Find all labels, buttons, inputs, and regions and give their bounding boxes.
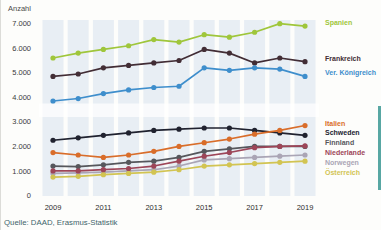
- data-point: [151, 159, 156, 164]
- data-point: [302, 74, 307, 79]
- data-point: [252, 65, 257, 70]
- data-point: [302, 159, 307, 164]
- data-point: [302, 152, 307, 157]
- y-tick-label: 6.000: [12, 44, 31, 53]
- data-point: [302, 123, 307, 128]
- y-tick-label: 0: [27, 191, 31, 200]
- data-point: [151, 128, 156, 133]
- data-point: [50, 174, 55, 179]
- data-point: [252, 30, 257, 35]
- data-point: [227, 136, 232, 141]
- data-point: [126, 171, 131, 176]
- cluster-separator-band: [39, 104, 319, 118]
- data-point: [126, 152, 131, 157]
- data-point: [277, 160, 282, 165]
- data-point: [202, 163, 207, 168]
- y-tick-label: 7.000: [12, 19, 31, 28]
- data-point: [252, 132, 257, 137]
- x-tick-label: 2009: [45, 203, 62, 212]
- legend-label-Frankreich: Frankreich: [325, 54, 361, 63]
- data-point: [50, 74, 55, 79]
- data-point: [302, 143, 307, 148]
- line-chart: 01.0002.0003.0004.0005.0006.0007.0002009…: [1, 0, 381, 230]
- data-point: [151, 149, 156, 154]
- data-point: [101, 91, 106, 96]
- data-point: [227, 156, 232, 161]
- data-point: [176, 39, 181, 44]
- data-point: [277, 128, 282, 133]
- data-point: [252, 145, 257, 150]
- data-point: [101, 167, 106, 172]
- y-tick-label: 4.000: [12, 93, 31, 102]
- data-point: [227, 162, 232, 167]
- data-point: [252, 161, 257, 166]
- data-point: [227, 150, 232, 155]
- data-point: [277, 55, 282, 60]
- legend-label-Norwegen: Norwegen: [325, 158, 359, 167]
- data-point: [126, 43, 131, 48]
- y-tick-label: 1.000: [12, 167, 31, 176]
- data-point: [126, 63, 131, 68]
- data-point: [151, 85, 156, 90]
- data-point: [277, 21, 282, 26]
- data-point: [252, 60, 257, 65]
- data-point: [76, 51, 81, 56]
- data-point: [76, 71, 81, 76]
- data-point: [176, 144, 181, 149]
- data-point: [277, 144, 282, 149]
- source-caption: Quelle: DAAD, Erasmus-Statistik: [4, 218, 118, 227]
- chart-page: Anzahl 01.0002.0003.0004.0005.0006.0007.…: [0, 0, 381, 230]
- data-point: [277, 154, 282, 159]
- data-point: [126, 166, 131, 171]
- y-tick-label: 3.000: [12, 117, 31, 126]
- data-point: [76, 174, 81, 179]
- data-point: [202, 32, 207, 37]
- data-point: [202, 149, 207, 154]
- y-tick-label: 5.000: [12, 68, 31, 77]
- data-point: [151, 60, 156, 65]
- data-point: [302, 133, 307, 138]
- data-point: [176, 167, 181, 172]
- data-point: [202, 47, 207, 52]
- legend-label-Österreich: Österreich: [325, 168, 360, 177]
- data-point: [151, 170, 156, 175]
- data-point: [176, 159, 181, 164]
- data-point: [76, 96, 81, 101]
- data-point: [277, 66, 282, 71]
- x-tick-label: 2017: [246, 203, 263, 212]
- data-point: [176, 58, 181, 63]
- data-point: [50, 138, 55, 143]
- data-point: [50, 98, 55, 103]
- legend-label-Italien: Italien: [325, 119, 345, 128]
- y-tick-label: 2.000: [12, 142, 31, 151]
- data-point: [227, 35, 232, 40]
- data-point: [202, 154, 207, 159]
- x-tick-label: 2013: [145, 203, 162, 212]
- data-point: [302, 59, 307, 64]
- data-point: [302, 24, 307, 29]
- data-point: [202, 65, 207, 70]
- data-point: [151, 37, 156, 42]
- legend-label-Niederlande: Niederlande: [325, 148, 365, 157]
- data-point: [101, 47, 106, 52]
- data-point: [101, 172, 106, 177]
- data-point: [227, 125, 232, 130]
- data-point: [76, 152, 81, 157]
- data-point: [202, 125, 207, 130]
- data-point: [227, 51, 232, 56]
- data-point: [126, 87, 131, 92]
- data-point: [101, 162, 106, 167]
- data-point: [151, 163, 156, 168]
- data-point: [50, 168, 55, 173]
- data-point: [76, 135, 81, 140]
- legend-label-Spanien: Spanien: [325, 18, 352, 27]
- x-tick-label: 2011: [95, 203, 111, 212]
- legend-label-Schweden: Schweden: [325, 128, 360, 137]
- x-tick-label: 2015: [196, 203, 213, 212]
- data-point: [126, 130, 131, 135]
- data-point: [202, 140, 207, 145]
- data-point: [227, 68, 232, 73]
- legend-label-Finnland: Finnland: [325, 138, 354, 147]
- data-point: [50, 163, 55, 168]
- data-point: [50, 55, 55, 60]
